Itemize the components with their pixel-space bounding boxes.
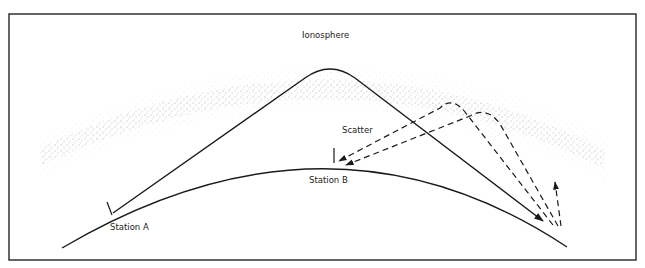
station-a-label: Station A [110, 222, 149, 232]
station-b-label: Station B [309, 175, 348, 185]
station-a-marker [107, 202, 112, 215]
scatter-label: Scatter [342, 125, 373, 135]
ionospheric-scatter-diagram: Ionosphere Scatter Station B Station A [0, 0, 645, 268]
upward-scatter-arrow [555, 182, 561, 226]
ionosphere-label: Ionosphere [302, 30, 349, 40]
ionosphere-layer [40, 79, 605, 168]
